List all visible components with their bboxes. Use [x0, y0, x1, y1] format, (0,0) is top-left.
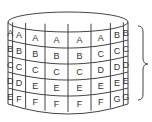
- grid-cell: G: [122, 92, 129, 102]
- grid-cell: D: [122, 60, 129, 70]
- grid-cell: B: [76, 51, 82, 61]
- grid-cell: C: [53, 67, 60, 77]
- grid-cell: E: [98, 81, 104, 91]
- grid-cell: F: [54, 99, 60, 109]
- grid-cell: E: [32, 81, 38, 91]
- cylinder-diagram: AAAAAABBBBBBBCCCCCCCCDDDDDEEEEEEEFFFFFGG: [0, 0, 152, 122]
- grid-cell: F: [16, 94, 22, 104]
- grid-cell: B: [7, 44, 13, 54]
- grid-cell: D: [7, 76, 14, 86]
- grid-cell: C: [114, 46, 121, 56]
- grid-cell: C: [122, 44, 129, 54]
- grid-cell: C: [32, 65, 39, 75]
- grid-cell: E: [7, 92, 13, 102]
- grid-cell: B: [16, 46, 22, 56]
- grid-lines: [8, 22, 128, 112]
- grid-cell: E: [76, 83, 82, 93]
- grid-cell: B: [32, 49, 38, 59]
- grid-cell: B: [123, 28, 129, 38]
- grid-cell: E: [114, 78, 120, 88]
- grid-cell: D: [114, 62, 121, 72]
- grid-cell: F: [77, 99, 83, 109]
- grid-cell: B: [114, 30, 120, 40]
- grid-cell: A: [53, 35, 59, 45]
- grid-cell: A: [7, 28, 13, 38]
- grid-cell: A: [98, 33, 104, 43]
- grid-cell: D: [16, 78, 23, 88]
- grid-cell: C: [16, 62, 23, 72]
- grid-cell: B: [53, 51, 59, 61]
- grid-cell: F: [33, 97, 39, 107]
- grid-cell: C: [97, 49, 104, 59]
- grid-cell: A: [32, 33, 38, 43]
- grid-cell: A: [76, 35, 82, 45]
- grid-cell: G: [113, 94, 120, 104]
- grid-cell: C: [76, 67, 83, 77]
- grid-cell: E: [123, 76, 129, 86]
- grid-cell: A: [16, 30, 22, 40]
- grid-cell: E: [53, 83, 59, 93]
- right-brace: [138, 26, 148, 100]
- grid-cell: C: [7, 60, 14, 70]
- grid-cell: D: [97, 65, 104, 75]
- grid-cell: F: [98, 97, 104, 107]
